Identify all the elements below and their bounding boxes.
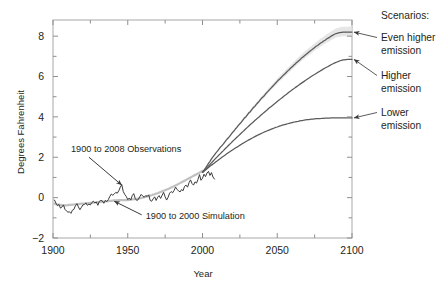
observations-annotation-arrow (89, 157, 122, 185)
legend-label-line1: Even higher (381, 32, 436, 43)
chart-canvas: 19001950200020502100 −202468 Year Degree… (0, 0, 447, 287)
series-line-simulation (54, 171, 202, 205)
simulation-annotation-text: 1900 to 2000 Simulation (146, 211, 245, 221)
legend-item-even-higher-emission[interactable]: Even higheremission (354, 32, 436, 56)
legend: Scenarios:Even higheremissionHigheremiss… (354, 10, 436, 131)
x-tick-label: 2100 (340, 244, 364, 256)
legend-pointer-higher-emission (354, 59, 377, 75)
legend-label-line2: emission (381, 120, 421, 131)
series-line-lower-emission (203, 118, 353, 172)
y-tick-label: 4 (38, 111, 44, 123)
legend-item-lower-emission[interactable]: Loweremission (354, 107, 421, 131)
legend-label-line1: Lower (381, 107, 409, 118)
legend-label-line2: emission (381, 83, 421, 94)
y-tick-label: 2 (38, 151, 44, 163)
y-axis-title: Degrees Fahrenheit (15, 90, 26, 174)
legend-item-higher-emission[interactable]: Higheremission (354, 59, 421, 93)
y-tick-label: 6 (38, 70, 44, 82)
x-tick-label: 2000 (191, 244, 215, 256)
climate-projection-figure: 19001950200020502100 −202468 Year Degree… (0, 0, 447, 287)
simulation-annotation-arrow (114, 201, 141, 215)
series-lines (54, 32, 352, 213)
y-tick-label: 8 (38, 30, 44, 42)
x-tick-label: 1950 (116, 244, 140, 256)
y-tick-label: 0 (38, 191, 44, 203)
even-higher-uncertainty-band (203, 26, 353, 172)
x-axis-title: Year (193, 268, 212, 279)
legend-label-line1: Higher (381, 70, 412, 81)
uncertainty-band (203, 26, 353, 172)
y-axis-tick-labels: −202468 (32, 30, 44, 244)
x-tick-label: 1900 (41, 244, 65, 256)
x-axis-tick-labels: 19001950200020502100 (41, 244, 364, 256)
y-tick-label: −2 (32, 232, 44, 244)
observations-annotation-text: 1900 to 2008 Observations (71, 144, 182, 154)
x-tick-label: 2050 (266, 244, 290, 256)
legend-pointer-lower-emission (354, 113, 377, 118)
y-axis-ticks (53, 36, 352, 238)
legend-pointer-even-higher-emission (354, 32, 377, 37)
legend-label-line2: emission (381, 45, 421, 56)
legend-title: Scenarios: (381, 10, 429, 21)
